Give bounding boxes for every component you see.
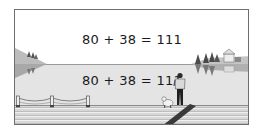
person-icon xyxy=(172,72,188,108)
left-shore-icon xyxy=(15,48,55,78)
illustration-frame: 80 + 38 = 111 80 + 38 = 111 xyxy=(14,9,249,125)
equation-reflection-text: 80 + 38 = 111 xyxy=(82,73,182,88)
equation-text: 80 + 38 = 111 xyxy=(82,32,182,47)
right-shore-icon xyxy=(191,48,249,78)
rope-railing-icon xyxy=(15,95,95,111)
